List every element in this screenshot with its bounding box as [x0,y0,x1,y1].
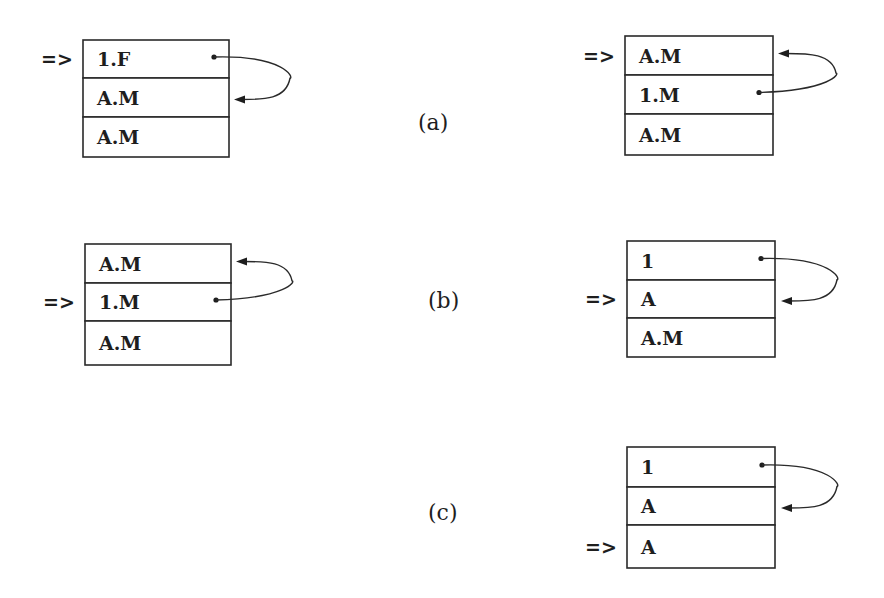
case-label-b: (b) [428,288,459,313]
stack-cell: A [627,487,775,525]
current-frame-pointer-icon: => [43,291,75,313]
stack-cell: A.M [625,36,773,75]
stack-cell: A [627,280,775,318]
stack-cell: 1.F [83,40,229,78]
stack-cell: 1 [627,447,775,487]
arrowhead-icon [781,504,792,512]
current-frame-pointer-icon: => [583,45,615,67]
cell-label: 1 [641,250,654,272]
stack-cell: A.M [85,244,231,283]
arrowhead-icon [234,96,245,104]
cell-label: 1.M [99,291,140,313]
stack-c-right: 1AA=> [585,447,838,568]
stack-b-right: 1AA.M=> [585,241,838,357]
stack-cell: 1.M [85,283,231,321]
cell-label: 1 [641,456,654,478]
current-frame-pointer-icon: => [585,288,617,310]
arrowhead-icon [781,297,792,305]
stack-cell: A.M [85,321,231,365]
cell-label: A.M [96,126,139,148]
cell-label: A.M [640,327,683,349]
stack-cell: A.M [627,318,775,357]
stack-cell: 1 [627,241,775,280]
stack-cell: A [627,525,775,568]
cell-label: A.M [98,253,141,275]
current-frame-pointer-icon: => [41,48,73,70]
stack-a-right: A.M1.MA.M=> [583,36,837,155]
cell-label: 1.M [639,84,680,106]
arrowhead-icon [236,258,247,266]
cell-label: A.M [98,332,141,354]
arrowhead-icon [778,50,789,58]
cell-label: A [640,536,656,558]
stack-cell: A.M [83,78,229,117]
case-labels: (a)(b)(c) [418,110,459,525]
stack-b-left: A.M1.MA.M=> [43,244,293,365]
cell-label: A.M [638,45,681,67]
case-label-a: (a) [418,110,448,135]
cell-label: A.M [96,87,139,109]
cell-label: A [640,495,656,517]
current-frame-pointer-icon: => [585,536,617,558]
cell-label: 1.F [97,48,131,70]
stack-cell: A.M [625,114,773,155]
cell-label: A [640,288,656,310]
stack-cell: A.M [83,117,229,157]
stack-cell: 1.M [625,75,773,114]
case-label-c: (c) [428,500,458,525]
stack-a-left: 1.FA.MA.M=> [41,40,291,157]
diagram-canvas: (a)(b)(c) 1.FA.MA.M=>A.M1.MA.M=>A.M1.MA.… [0,0,884,598]
cell-label: A.M [638,124,681,146]
